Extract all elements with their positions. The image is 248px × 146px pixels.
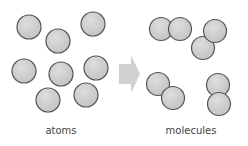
molecule	[192, 20, 227, 60]
molecules-label: molecules	[166, 125, 217, 136]
atom	[81, 12, 105, 36]
atoms-group	[12, 12, 108, 112]
atom	[74, 83, 98, 107]
atom	[12, 59, 36, 83]
atom	[17, 15, 41, 39]
molecule	[150, 18, 192, 41]
atoms-molecules-diagram: atoms molecules	[0, 0, 248, 146]
molecule	[207, 74, 231, 116]
atoms-label: atoms	[45, 125, 76, 136]
molecules-group	[147, 18, 231, 116]
right-arrow-icon	[119, 55, 140, 93]
atom	[46, 29, 70, 53]
molecule	[147, 73, 185, 110]
atom	[36, 88, 60, 112]
atom	[49, 62, 73, 86]
atom	[84, 56, 108, 80]
